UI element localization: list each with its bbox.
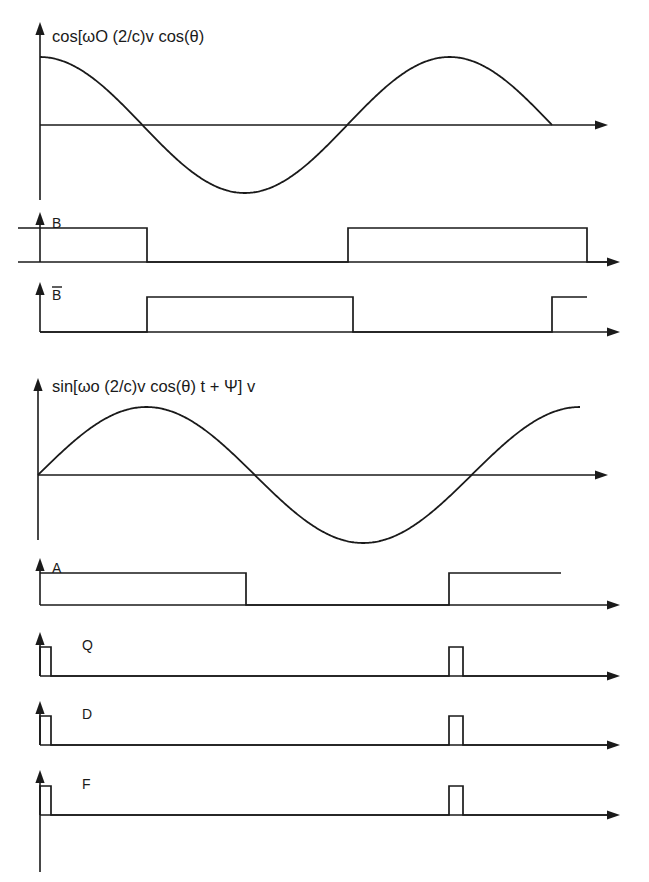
trace-sin-carrier: sin[ωo (2/c)v cos(θ) t + Ψ] v — [33, 377, 608, 543]
signal-B-bar-y-axis-arrow — [35, 282, 44, 295]
signal-F-y-axis-arrow — [35, 770, 44, 783]
trace-signal-B-bar: B — [35, 282, 620, 337]
signal-A-y-axis-arrow — [35, 558, 44, 571]
signal-F-label: F — [82, 776, 91, 792]
signal-B-bar-x-axis-arrow — [607, 327, 620, 336]
trace-signal-B: B — [18, 212, 620, 267]
trace-signal-D: D — [35, 701, 620, 750]
cos-carrier-label: cos[ωO (2/c)v cos(θ) — [52, 27, 204, 45]
signal-B-y-axis-arrow — [35, 212, 44, 225]
signal-Q-y-axis-arrow — [35, 632, 44, 645]
signal-B-label: B — [52, 215, 61, 231]
signal-A-waveform — [40, 573, 561, 605]
signal-D-waveform — [40, 716, 610, 745]
signal-B-bar-waveform — [40, 297, 587, 332]
signal-D-label: D — [82, 706, 92, 722]
signal-A-label: A — [52, 560, 62, 576]
sin-carrier-label: sin[ωo (2/c)v cos(θ) t + Ψ] v — [52, 377, 256, 395]
cos-carrier-x-axis-arrow — [595, 120, 608, 129]
signal-A-x-axis-arrow — [607, 600, 620, 609]
waveform-canvas: cos[ωO (2/c)v cos(θ)sin[ωo (2/c)v cos(θ)… — [0, 0, 649, 882]
trace-cos-carrier: cos[ωO (2/c)v cos(θ) — [35, 22, 608, 200]
trace-signal-F: F — [35, 770, 620, 872]
signal-D-y-axis-arrow — [35, 701, 44, 714]
signal-F-waveform — [40, 786, 610, 815]
sin-carrier-y-axis-arrow — [33, 378, 42, 391]
trace-signal-A: A — [35, 558, 620, 610]
signal-B-bar-label: B — [52, 287, 61, 303]
waveform-figure: cos[ωO (2/c)v cos(θ)sin[ωo (2/c)v cos(θ)… — [0, 0, 649, 882]
signal-Q-waveform — [40, 647, 610, 676]
sin-carrier-x-axis-arrow — [595, 470, 608, 479]
signal-Q-label: Q — [82, 637, 93, 653]
cos-carrier-y-axis-arrow — [35, 22, 44, 35]
trace-signal-Q: Q — [35, 632, 620, 681]
signal-B-waveform — [18, 228, 610, 262]
